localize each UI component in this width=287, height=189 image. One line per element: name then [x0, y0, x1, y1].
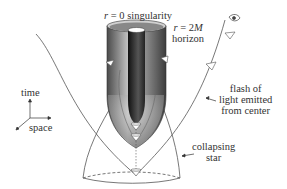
singularity-label: r = 0 singularity [104, 10, 172, 21]
horizon-label: r = 2M horizon [172, 22, 204, 44]
star-line-2: star [192, 152, 235, 163]
axis-space-label: space [29, 122, 52, 133]
flash-line-1: flash of [219, 83, 272, 94]
singularity-core [128, 28, 145, 125]
var-M: M [194, 22, 203, 33]
eye-icon [229, 14, 240, 20]
collapsing-star-label: collapsing star [192, 141, 235, 163]
star-line-1: collapsing [192, 141, 235, 152]
flash-line-3: from center [219, 105, 272, 116]
flash-line-2: light emitted [219, 94, 272, 105]
horizon-text: horizon [172, 33, 204, 44]
eq-text: = 2 [178, 22, 194, 33]
singularity-text: = 0 singularity [108, 10, 172, 21]
flash-label: flash of light emitted from center [219, 83, 272, 116]
axis-time-label: time [21, 87, 40, 98]
